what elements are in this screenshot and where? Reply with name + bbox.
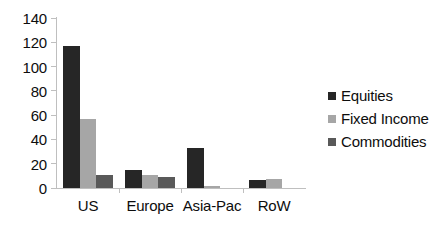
bar-chart: 020406080100120140 USEuropeAsia-PacRoW E…	[0, 0, 440, 236]
x-axis-category-label: Europe	[119, 198, 181, 213]
x-axis-tick	[119, 188, 120, 193]
y-axis-tick-label: 80	[7, 84, 47, 99]
bar	[249, 180, 266, 189]
legend-item[interactable]: Commodities	[328, 130, 429, 153]
bar	[266, 179, 283, 188]
bar	[158, 177, 175, 188]
x-axis-category-label: US	[57, 198, 119, 213]
bar	[125, 170, 142, 188]
legend-swatch-icon	[328, 115, 336, 123]
y-axis-tick-label: 40	[7, 132, 47, 147]
y-axis-tick-label: 20	[7, 157, 47, 172]
chart-legend: EquitiesFixed IncomeCommodities	[328, 84, 429, 153]
y-axis-tick-label: 60	[7, 108, 47, 123]
bar	[142, 175, 159, 188]
bar	[80, 119, 97, 188]
plot-area	[57, 18, 305, 188]
bar	[96, 175, 113, 188]
bar	[204, 186, 221, 188]
y-axis-tick-label: 140	[7, 11, 47, 26]
y-axis-tick-label: 100	[7, 60, 47, 75]
x-axis-category-label: Asia-Pac	[181, 198, 243, 213]
x-axis-category-label: RoW	[243, 198, 305, 213]
legend-label: Commodities	[341, 134, 426, 149]
legend-item[interactable]: Fixed Income	[328, 107, 429, 130]
x-axis-tick	[181, 188, 182, 193]
y-axis-tick-label: 120	[7, 35, 47, 50]
legend-swatch-icon	[328, 92, 336, 100]
legend-swatch-icon	[328, 138, 336, 146]
legend-label: Equities	[341, 88, 393, 103]
y-axis-tick-label: 0	[7, 181, 47, 196]
bar	[187, 148, 204, 188]
x-axis-tick	[243, 188, 244, 193]
legend-item[interactable]: Equities	[328, 84, 429, 107]
legend-label: Fixed Income	[341, 111, 429, 126]
bar	[63, 46, 80, 188]
